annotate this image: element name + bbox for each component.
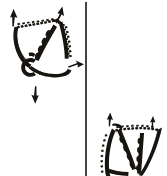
anatomical-figure: [0, 0, 167, 176]
figure-root: [0, 0, 167, 176]
